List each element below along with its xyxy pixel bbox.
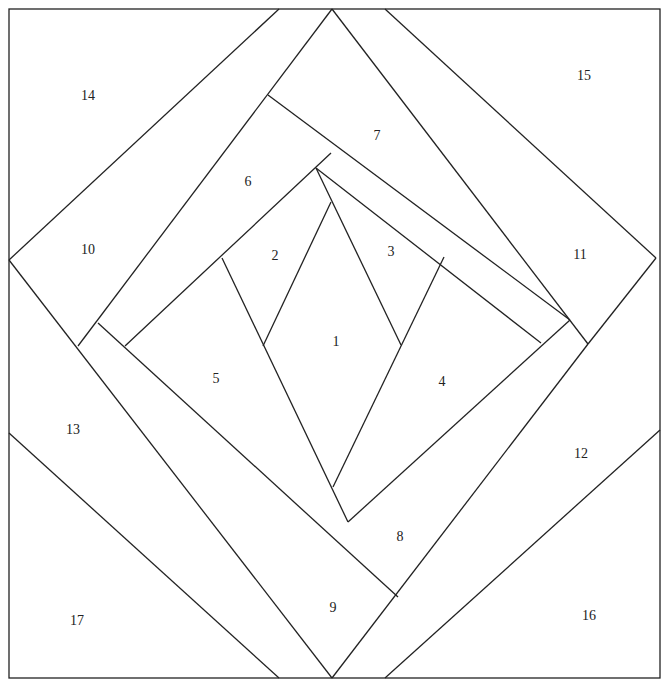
seam-line: [9, 9, 279, 260]
piece-label-12: 12: [574, 447, 588, 461]
seam-line: [78, 9, 332, 346]
piece-label-1: 1: [333, 335, 340, 349]
piece-label-6: 6: [245, 175, 252, 189]
piece-label-7: 7: [374, 129, 381, 143]
seam-line: [332, 9, 588, 344]
piece-label-11: 11: [573, 248, 586, 262]
seam-line: [263, 202, 331, 346]
piece-label-15: 15: [577, 69, 591, 83]
piece-label-2: 2: [272, 249, 279, 263]
seam-line: [125, 153, 331, 346]
seam-line: [268, 95, 570, 320]
seam-line: [385, 9, 656, 258]
seam-line: [222, 258, 348, 522]
piece-label-3: 3: [388, 245, 395, 259]
seam-line: [333, 257, 444, 487]
piece-label-14: 14: [81, 89, 95, 103]
seam-line: [588, 258, 656, 344]
seam-line: [316, 168, 541, 343]
piece-label-5: 5: [213, 372, 220, 386]
piece-label-16: 16: [582, 609, 596, 623]
piece-label-8: 8: [397, 530, 404, 544]
seam-line: [9, 433, 279, 678]
piece-label-13: 13: [66, 423, 80, 437]
piece-label-17: 17: [70, 614, 84, 628]
piece-label-10: 10: [81, 243, 95, 257]
seam-line: [348, 320, 570, 522]
piece-label-9: 9: [330, 601, 337, 615]
seam-line: [9, 260, 332, 678]
seam-line: [332, 344, 588, 678]
piece-label-4: 4: [439, 375, 446, 389]
seam-line: [98, 323, 398, 597]
